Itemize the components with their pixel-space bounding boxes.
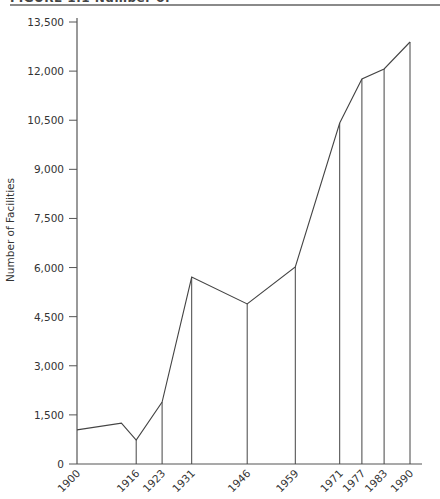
x-tick-label: 1931 (170, 467, 197, 494)
x-tick-label: 1916 (114, 467, 142, 495)
data-line (77, 42, 410, 440)
line-chart: 01,5003,0004,5006,0007,5009,00010,50012,… (0, 0, 440, 499)
y-tick-label: 7,500 (34, 212, 64, 224)
x-tick-label: 1971 (318, 467, 345, 494)
y-tick-label: 13,500 (27, 16, 64, 28)
y-tick-label: 1,500 (34, 409, 64, 421)
x-tick-label: 1990 (388, 467, 415, 494)
x-axis: 1900191619231931194619591971197719831990 (55, 464, 422, 494)
x-tick-label: 1983 (362, 467, 389, 494)
y-tick-label: 9,000 (34, 163, 64, 175)
x-tick-label: 1900 (55, 467, 82, 494)
y-tick-label: 10,500 (27, 114, 64, 126)
x-tick-label: 1959 (273, 467, 300, 494)
y-axis-title: Number of Facilities (4, 178, 16, 282)
y-tick-label: 4,500 (34, 311, 64, 323)
y-tick-label: 6,000 (34, 262, 64, 274)
drop-lines (136, 42, 410, 464)
x-tick-label: 1977 (340, 467, 367, 494)
y-axis: 01,5003,0004,5006,0007,5009,00010,50012,… (27, 16, 77, 470)
x-tick-label: 1923 (140, 467, 167, 494)
y-tick-label: 0 (57, 458, 64, 470)
x-tick-label: 1946 (225, 467, 253, 495)
y-tick-label: 12,000 (27, 65, 64, 77)
y-tick-label: 3,000 (34, 360, 64, 372)
